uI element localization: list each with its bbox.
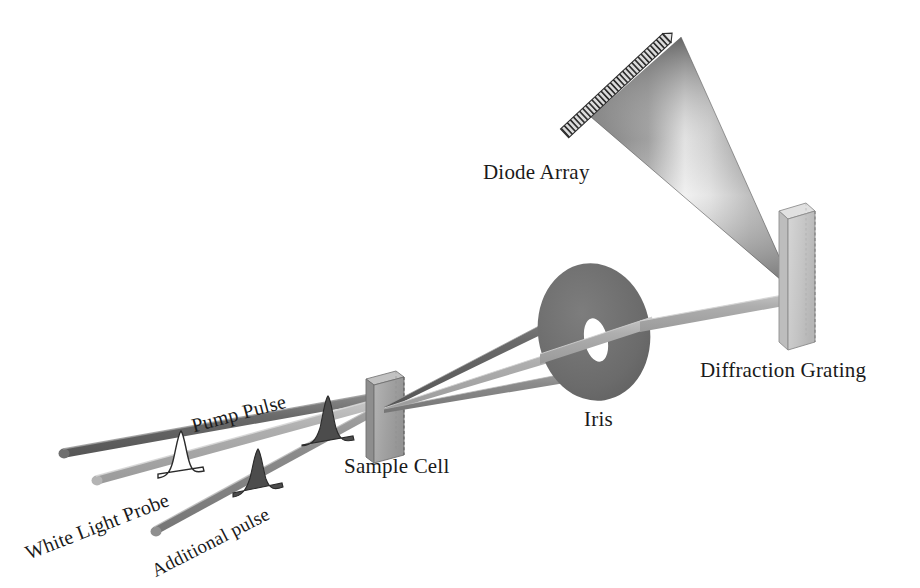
label-diffraction-grating: Diffraction Grating [700,358,866,383]
label-sample-cell: Sample Cell [344,454,449,479]
label-diode-array: Diode Array [483,160,590,185]
diffraction-grating [779,203,815,350]
iris-to-grating-beam [640,292,800,332]
sample-cell [366,371,404,463]
additional-gaussian-pulse [233,449,283,497]
diagram-canvas: Pump Pulse White Light Probe Additional … [0,0,920,588]
label-iris: Iris [584,407,613,432]
